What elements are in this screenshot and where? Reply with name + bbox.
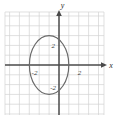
graph-svg: -2 2 2 -2 x y (0, 0, 120, 126)
y-tick-label-positive-2: 2 (52, 42, 56, 50)
coordinate-plane-figure: -2 2 2 -2 x y (0, 0, 120, 126)
y-axis-label: y (60, 1, 65, 10)
x-tick-label-negative-2: -2 (32, 69, 38, 77)
y-tick-label-negative-2: -2 (50, 84, 56, 92)
x-tick-label-positive-2: 2 (78, 69, 82, 77)
x-axis-label: x (108, 61, 113, 70)
